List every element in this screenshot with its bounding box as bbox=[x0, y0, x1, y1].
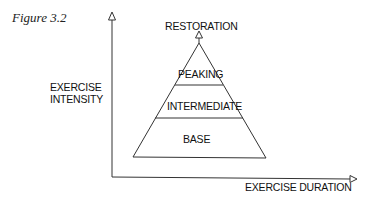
x-axis-label: EXERCISE DURATION bbox=[245, 181, 352, 193]
level-peaking-label: PEAKING bbox=[178, 68, 223, 80]
y-axis-label-line2: INTENSITY bbox=[50, 93, 103, 105]
restoration-label: RESTORATION bbox=[165, 20, 238, 32]
level-base-label: BASE bbox=[183, 133, 210, 145]
y-axis-label: EXERCISE INTENSITY bbox=[50, 81, 103, 105]
apex-arrow-icon bbox=[196, 31, 203, 38]
x-axis-line bbox=[112, 177, 350, 179]
y-axis-label-line1: EXERCISE bbox=[50, 81, 103, 93]
level-intermediate-label: INTERMEDIATE bbox=[167, 100, 242, 112]
y-axis-arrow-icon bbox=[109, 12, 116, 20]
